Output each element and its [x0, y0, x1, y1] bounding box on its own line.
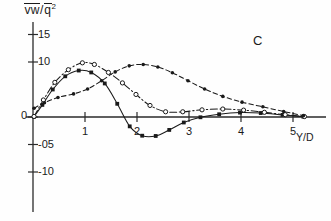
x-tick-label: 3 [186, 125, 192, 137]
x-axis-title: Y/D [296, 131, 314, 143]
data-point-marker [115, 102, 119, 106]
data-point-marker [72, 92, 76, 96]
data-point-marker [203, 87, 207, 91]
data-point-marker [217, 112, 221, 116]
data-point-marker [221, 95, 225, 99]
data-point-marker [242, 108, 246, 112]
y-axis-title-exponent: 2 [52, 2, 57, 11]
data-point-marker [100, 79, 104, 83]
data-point-marker [200, 108, 204, 112]
series-line [34, 70, 303, 137]
y-tick-label: 15 [38, 28, 50, 40]
series-solid-square [32, 69, 305, 138]
data-point-marker [182, 121, 186, 125]
data-point-marker [51, 88, 55, 92]
data-point-marker [53, 80, 57, 84]
axes [26, 22, 326, 212]
data-point-marker [154, 134, 158, 138]
data-point-marker [302, 114, 306, 118]
y-tick-label-zero: 0 [21, 109, 27, 121]
data-point-marker [113, 70, 117, 74]
data-point-marker [77, 69, 81, 73]
y-tick-label: 10 [38, 55, 50, 67]
data-point-marker [128, 124, 132, 128]
data-point-marker [32, 114, 36, 118]
data-point-marker [186, 79, 190, 83]
y-axis-title: vw/q2 [24, 2, 56, 17]
data-point-marker [92, 62, 96, 66]
data-point-marker [32, 106, 36, 110]
series-dashdot-circle [32, 61, 307, 119]
data-point-marker [106, 70, 110, 74]
y-tick-label: -05 [38, 138, 54, 150]
data-point-marker [199, 115, 203, 119]
data-point-marker [171, 71, 175, 75]
data-point-marker [167, 128, 171, 132]
data-point-marker [127, 64, 131, 68]
data-point-marker [140, 134, 144, 138]
data-point-marker [43, 101, 47, 105]
series-line [34, 62, 304, 116]
data-point-marker [221, 107, 225, 111]
data-point-marker [89, 71, 93, 75]
y-axis-title-denominator: q [44, 3, 52, 17]
data-point-marker [240, 100, 244, 104]
data-point-marker [156, 65, 160, 69]
y-axis-title-numerator: vw [24, 3, 40, 17]
x-tick-label: 1 [82, 125, 88, 137]
data-point-marker [120, 81, 124, 85]
data-point-marker [80, 61, 84, 65]
x-tick-label: 4 [238, 125, 244, 137]
y-tick-label: -10 [38, 165, 54, 177]
data-point-marker [134, 92, 138, 96]
series-dashed-dot [32, 63, 305, 118]
panel-label: C [253, 33, 262, 48]
figure-panel-c: vw/q2 C Y/D 1510-05-100 12345 [0, 0, 331, 221]
data-point-marker [141, 63, 145, 67]
x-tick-label: 5 [290, 125, 296, 137]
data-point-marker [181, 110, 185, 114]
data-point-marker [103, 82, 107, 86]
data-point-marker [63, 74, 67, 78]
data-point-marker [261, 105, 265, 109]
data-point-marker [148, 103, 152, 107]
data-point-marker [282, 110, 286, 114]
data-point-marker [164, 110, 168, 114]
data-point-marker [86, 87, 90, 91]
data-series-layer [32, 61, 307, 138]
x-tick-label: 2 [134, 125, 140, 137]
data-point-marker [56, 96, 60, 100]
data-point-marker [66, 68, 70, 72]
data-point-marker [262, 110, 266, 114]
